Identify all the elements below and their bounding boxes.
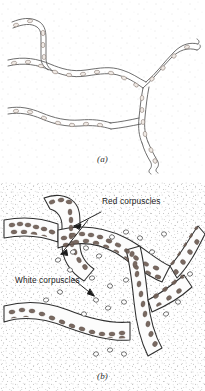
tissue-background-a (0, 0, 205, 178)
panel-b: Red corpuscles White corpuscles (0, 182, 205, 391)
capillary-figure: (a) (0, 0, 205, 391)
label-white-corpuscles: White corpuscles (15, 275, 80, 285)
panel-a-caption: (a) (0, 154, 205, 164)
panel-a (0, 0, 205, 178)
label-red-corpuscles: Red corpuscles (102, 196, 161, 206)
panel-b-caption: (b) (0, 371, 205, 381)
